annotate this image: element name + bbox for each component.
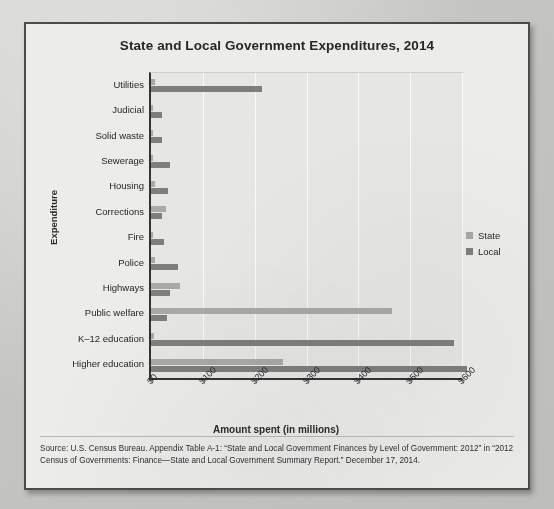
bar-local xyxy=(151,188,168,194)
bar-local xyxy=(151,137,162,143)
bar-group xyxy=(151,283,462,296)
bar-local xyxy=(151,340,454,346)
bar-state xyxy=(151,155,153,161)
bar-state xyxy=(151,130,153,136)
bar-group xyxy=(151,257,462,270)
bar-group xyxy=(151,79,462,92)
bar-state xyxy=(151,181,155,187)
y-tick-label: Judicial xyxy=(26,104,144,115)
bar-state xyxy=(151,232,153,238)
scanned-page: State and Local Government Expenditures,… xyxy=(0,0,554,509)
gridline xyxy=(410,73,411,378)
y-tick-label: Corrections xyxy=(26,206,144,217)
y-tick-label: Fire xyxy=(26,231,144,242)
source-divider xyxy=(40,436,514,437)
bar-state xyxy=(151,333,154,339)
legend-swatch-state xyxy=(466,232,473,239)
y-tick-label: Higher education xyxy=(26,358,144,369)
x-axis-title: Amount spent (in millions) xyxy=(86,424,466,435)
y-tick-label: K–12 education xyxy=(26,333,144,344)
bar-group xyxy=(151,232,462,245)
y-tick-label: Housing xyxy=(26,180,144,191)
gridline xyxy=(255,73,256,378)
legend-label: State xyxy=(478,230,500,241)
source-note: Source: U.S. Census Bureau. Appendix Tab… xyxy=(40,443,516,467)
bar-state xyxy=(151,206,166,212)
x-axis-tick-labels: $0$100$200$300$400$500$600 xyxy=(149,379,469,419)
bar-local xyxy=(151,315,167,321)
gridline xyxy=(307,73,308,378)
legend-item: State xyxy=(466,230,526,241)
plot-area xyxy=(149,72,463,380)
bar-state xyxy=(151,283,180,289)
chart-figure-frame: State and Local Government Expenditures,… xyxy=(24,22,530,490)
bar-state xyxy=(151,308,392,314)
bar-local xyxy=(151,264,178,270)
bar-state xyxy=(151,257,155,263)
y-tick-label: Sewerage xyxy=(26,155,144,166)
bar-group xyxy=(151,308,462,321)
bar-local xyxy=(151,86,262,92)
chart-legend: StateLocal xyxy=(466,230,526,262)
bar-local xyxy=(151,239,164,245)
y-tick-label: Utilities xyxy=(26,79,144,90)
bar-state xyxy=(151,105,153,111)
legend-swatch-local xyxy=(466,248,473,255)
bar-local xyxy=(151,162,170,168)
y-axis-tick-labels: UtilitiesJudicialSolid wasteSewerageHous… xyxy=(26,72,144,377)
bar-group xyxy=(151,155,462,168)
bar-group xyxy=(151,181,462,194)
bar-group xyxy=(151,206,462,219)
legend-item: Local xyxy=(466,246,526,257)
gridline xyxy=(462,73,463,378)
y-tick-label: Highways xyxy=(26,282,144,293)
bar-state xyxy=(151,359,283,365)
y-tick-label: Public welfare xyxy=(26,307,144,318)
gridline xyxy=(203,73,204,378)
bar-state xyxy=(151,79,155,85)
y-tick-label: Solid waste xyxy=(26,130,144,141)
bar-local xyxy=(151,112,162,118)
bar-group xyxy=(151,333,462,346)
y-tick-label: Police xyxy=(26,257,144,268)
bar-group xyxy=(151,130,462,143)
bar-group xyxy=(151,105,462,118)
legend-label: Local xyxy=(478,246,501,257)
gridline xyxy=(358,73,359,378)
bar-local xyxy=(151,290,170,296)
bar-local xyxy=(151,213,162,219)
chart-title: State and Local Government Expenditures,… xyxy=(26,38,528,53)
